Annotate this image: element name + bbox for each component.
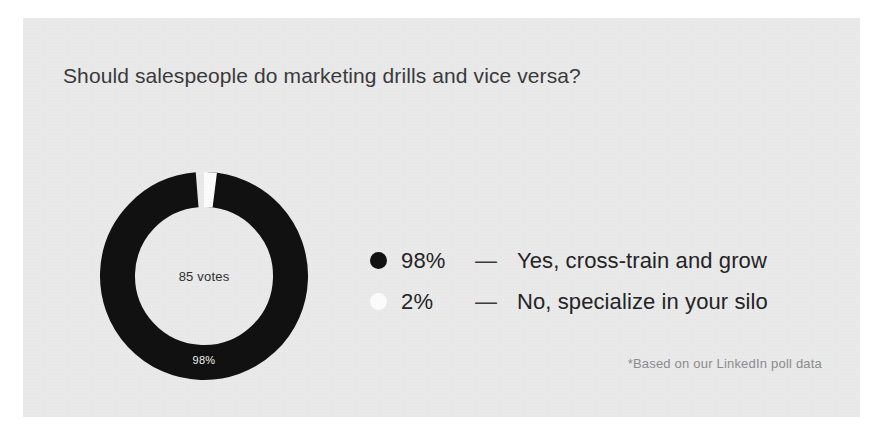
poll-result-card: Should salespeople do marketing drills a… <box>23 18 860 417</box>
legend-dash-yes: — <box>475 248 517 274</box>
donut-slice-yes <box>115 187 294 366</box>
legend-dash-no: — <box>475 289 517 315</box>
donut-chart-svg <box>100 172 308 380</box>
source-footnote: *Based on our LinkedIn poll data <box>628 356 822 371</box>
donut-chart: 85 votes 98% <box>100 172 308 380</box>
legend-swatch-dot-yes <box>370 252 387 269</box>
legend-percent-no: 2% <box>401 289 475 315</box>
legend-percent-yes: 98% <box>401 248 475 274</box>
legend-swatch-dot-no <box>370 293 387 310</box>
legend-label-yes: Yes, cross-train and grow <box>517 248 767 274</box>
page-title: Should salespeople do marketing drills a… <box>63 62 581 90</box>
legend-label-no: No, specialize in your silo <box>517 289 768 315</box>
screenshot-root: Should salespeople do marketing drills a… <box>0 0 886 437</box>
legend-item-yes: 98% — Yes, cross-train and grow <box>370 240 768 281</box>
chart-legend: 98% — Yes, cross-train and grow 2% — No,… <box>370 240 768 322</box>
legend-item-no: 2% — No, specialize in your silo <box>370 281 768 322</box>
